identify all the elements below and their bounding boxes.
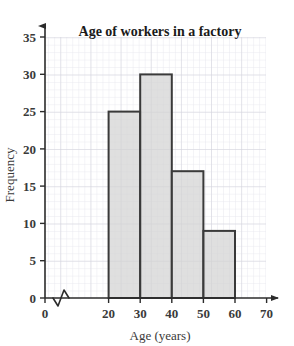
bar-30-40 xyxy=(140,74,172,298)
y-tick-label: 5 xyxy=(30,253,37,268)
y-tick-label: 30 xyxy=(23,67,36,82)
chart-canvas: 0 5 10 15 20 25 30 35 0 20 30 40 50 60 7… xyxy=(0,0,294,346)
x-axis-tick-labels: 0 20 30 40 50 60 70 xyxy=(42,306,273,321)
x-tick-label: 50 xyxy=(197,306,210,321)
bar-50-60 xyxy=(203,231,235,298)
y-tick-label: 35 xyxy=(23,30,37,45)
x-tick-label: 40 xyxy=(165,306,178,321)
bar-20-30 xyxy=(109,112,141,298)
y-axis-tick-labels: 0 5 10 15 20 25 30 35 xyxy=(23,30,37,306)
y-tick-label: 25 xyxy=(23,104,37,119)
x-axis-title: Age (years) xyxy=(130,328,191,343)
y-tick-label: 20 xyxy=(23,142,36,157)
x-tick-label: 70 xyxy=(260,306,273,321)
y-tick-label: 10 xyxy=(23,216,36,231)
y-axis-title: Frequency xyxy=(2,147,17,202)
y-tick-label: 0 xyxy=(30,291,37,306)
x-tick-label: 30 xyxy=(134,306,147,321)
y-tick-label: 15 xyxy=(23,179,37,194)
x-tick-label: 60 xyxy=(229,306,242,321)
x-tick-label: 20 xyxy=(102,306,115,321)
chart-title: Age of workers in a factory xyxy=(79,24,242,39)
histogram-chart: 0 5 10 15 20 25 30 35 0 20 30 40 50 60 7… xyxy=(0,0,294,346)
x-tick-label: 0 xyxy=(42,306,49,321)
bar-40-50 xyxy=(172,171,204,298)
